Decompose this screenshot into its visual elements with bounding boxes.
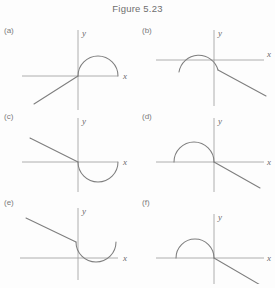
figure-container: Figure 5.23 (a) y x (b) y x (c): [0, 0, 275, 288]
curve-arc-segment: [174, 142, 214, 162]
x-axis-label: x: [266, 253, 271, 263]
y-axis-label: y: [81, 28, 86, 38]
curve-arc-segment: [78, 162, 118, 182]
curve-line-segment: [218, 70, 266, 96]
y-axis-label: y: [81, 206, 86, 216]
curve-line-segment: [214, 162, 260, 188]
panel-b: (b) y x: [138, 24, 275, 110]
panel-c: (c) y x: [0, 110, 137, 196]
panel-f: (f) y x: [138, 196, 275, 282]
curve-arc-segment: [179, 55, 218, 72]
panel-c-plot: y x: [0, 110, 137, 196]
panel-b-plot: y x: [138, 24, 275, 110]
y-axis-label: y: [217, 116, 222, 126]
panel-f-plot: y x: [138, 196, 275, 284]
curve-arc-segment: [78, 56, 118, 76]
y-axis-label: y: [217, 212, 222, 222]
curve-line-segment: [34, 76, 78, 104]
panel-d: (d) y x: [138, 110, 275, 196]
x-axis-label: x: [266, 157, 271, 167]
curve-line-segment: [26, 218, 76, 242]
panel-a: (a) y x: [0, 24, 137, 110]
panel-e-plot: y x: [0, 196, 137, 284]
curve-arc-segment: [176, 239, 214, 258]
y-axis-label: y: [217, 28, 222, 38]
y-axis-label: y: [81, 116, 86, 126]
panel-d-plot: y x: [138, 110, 275, 196]
curve-line-segment: [214, 258, 262, 284]
curve-arc-segment: [76, 242, 116, 262]
x-axis-label: x: [122, 253, 127, 263]
panel-a-plot: y x: [0, 24, 137, 110]
x-axis-label: x: [122, 71, 127, 81]
figure-title: Figure 5.23: [0, 3, 275, 14]
curve-line-segment: [30, 138, 78, 162]
x-axis-label: x: [122, 157, 127, 167]
panel-e: (e) y x: [0, 196, 137, 282]
x-axis-label: x: [266, 49, 271, 59]
